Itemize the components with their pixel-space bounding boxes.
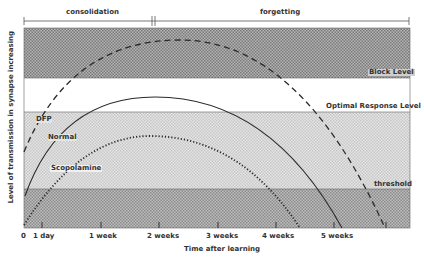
threshold-label: threshold	[374, 181, 412, 188]
x-tick-label: 4 weeks	[262, 233, 294, 240]
subthreshold-band	[24, 189, 410, 228]
dfp-label: DFP	[36, 116, 52, 123]
diagram-canvas	[0, 0, 424, 263]
scopolamine-label: Scopolamine	[50, 165, 102, 172]
response-band	[24, 112, 410, 189]
phase-label-forgetting: forgetting	[260, 9, 300, 16]
x-tick-label: 0	[21, 233, 26, 240]
normal-label: Normal	[48, 134, 77, 141]
x-tick-label: 5 weeks	[321, 233, 353, 240]
y-axis-label: Level of transmission in synapse increas…	[8, 54, 15, 204]
phase-label-consolidation: consolidation	[66, 9, 119, 16]
x-axis-label: Time after learning	[184, 246, 260, 253]
block-level-label: Block Level	[368, 69, 415, 76]
x-tick-label: 2 weeks	[147, 233, 179, 240]
optimal-level-label: Optimal Response Level	[326, 103, 421, 110]
x-tick-label: 1 week	[89, 233, 117, 240]
x-tick-label: 3 weeks	[206, 233, 238, 240]
x-tick-label: 1 day	[33, 233, 54, 240]
phase-bracket	[24, 16, 409, 26]
